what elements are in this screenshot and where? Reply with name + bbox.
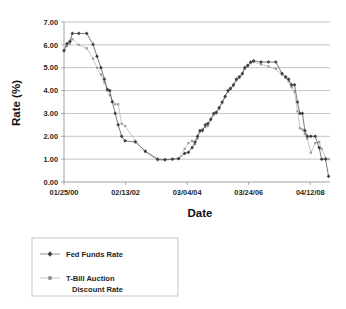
data-point-marker [116, 123, 120, 127]
data-point-marker [324, 157, 328, 161]
series-tbill-auction-discount-rate [63, 38, 330, 161]
data-point-marker [259, 60, 263, 64]
x-tick-label: 03/24/06 [234, 188, 263, 197]
data-point-marker [267, 60, 271, 64]
y-tick-label: 6.00 [44, 41, 58, 50]
data-point-marker [92, 57, 94, 59]
data-point-marker [100, 73, 102, 75]
data-point-marker [313, 134, 317, 138]
x-tick-label: 03/04/04 [173, 188, 203, 197]
data-point-marker [309, 134, 313, 138]
y-tick-label: 4.00 [44, 86, 58, 95]
y-tick-label: 5.00 [44, 63, 58, 72]
data-point-marker [305, 134, 309, 138]
data-point-marker [95, 54, 99, 58]
chart-figure: 0.001.002.003.004.005.006.007.00 01/25/0… [0, 0, 346, 309]
x-axis-title: Date [188, 207, 213, 219]
data-point-marker [71, 32, 75, 36]
data-point-marker [187, 142, 189, 144]
data-point-marker [163, 158, 167, 162]
data-point-marker [327, 174, 331, 178]
series-layer [62, 32, 330, 179]
y-tick-label: 1.00 [44, 155, 58, 164]
x-tick-label: 01/25/00 [50, 188, 79, 197]
data-point-marker [117, 103, 119, 105]
data-point-marker [171, 157, 175, 161]
legend-diamond-marker-icon [48, 251, 53, 257]
data-point-marker [71, 38, 73, 40]
x-tick-label: 02/13/02 [111, 188, 140, 197]
tickmarks-group [61, 22, 310, 185]
data-point-marker [296, 110, 298, 112]
data-point-marker [113, 112, 117, 116]
data-point-marker [320, 157, 324, 161]
chart-legend: Fed Funds Rate T-Bill Auction Discount R… [32, 238, 178, 296]
y-tick-label: 7.00 [44, 18, 58, 27]
data-point-marker [96, 67, 98, 69]
y-tick-label: 2.00 [44, 132, 58, 141]
rate-line-chart: 0.001.002.003.004.005.006.007.00 01/25/0… [0, 0, 346, 309]
y-tick-label: 0.00 [44, 178, 58, 187]
legend-label-fed-funds-rate: Fed Funds Rate [66, 250, 123, 259]
data-point-marker [191, 140, 193, 142]
legend-square-marker-icon [48, 276, 52, 280]
legend-item-fed-funds-rate[interactable]: Fed Funds Rate [40, 250, 123, 259]
data-point-marker [267, 65, 269, 67]
data-point-marker [318, 141, 320, 143]
data-point-marker [301, 112, 305, 116]
y-axis-title: Rate (%) [10, 80, 22, 126]
data-point-marker [91, 43, 95, 47]
data-point-marker [114, 103, 116, 105]
x-tick-label: 04/12/08 [296, 188, 325, 197]
x-tick-labels-group: 01/25/0002/13/0203/04/0403/24/0604/12/08 [50, 188, 325, 197]
data-point-marker [314, 142, 316, 144]
y-tick-labels-group: 0.001.002.003.004.005.006.007.00 [44, 18, 58, 187]
data-point-marker [310, 152, 312, 154]
data-point-marker [99, 66, 103, 70]
legend-item-tbill-auction-discount-rate[interactable]: T-Bill Auction Discount Rate [40, 274, 123, 294]
data-point-marker [275, 68, 277, 70]
data-point-marker [78, 44, 80, 46]
data-point-marker [110, 100, 114, 104]
data-point-marker [124, 125, 126, 127]
y-tick-label: 3.00 [44, 109, 58, 118]
data-point-marker [327, 158, 329, 160]
series-line [64, 33, 329, 176]
data-point-marker [77, 32, 81, 36]
data-point-marker [201, 129, 205, 133]
data-point-marker [86, 47, 88, 49]
data-point-marker [274, 60, 278, 64]
data-point-marker [121, 123, 123, 125]
legend-label-tbill-discount-rate: Discount Rate [72, 285, 123, 294]
data-point-marker [321, 148, 323, 150]
series-fed-funds-rate [62, 32, 330, 179]
data-point-marker [184, 148, 186, 150]
data-point-marker [301, 128, 303, 130]
data-point-marker [293, 83, 297, 87]
data-point-marker [299, 127, 301, 129]
data-point-marker [85, 32, 89, 36]
legend-label-tbill-auction: T-Bill Auction [66, 274, 115, 283]
